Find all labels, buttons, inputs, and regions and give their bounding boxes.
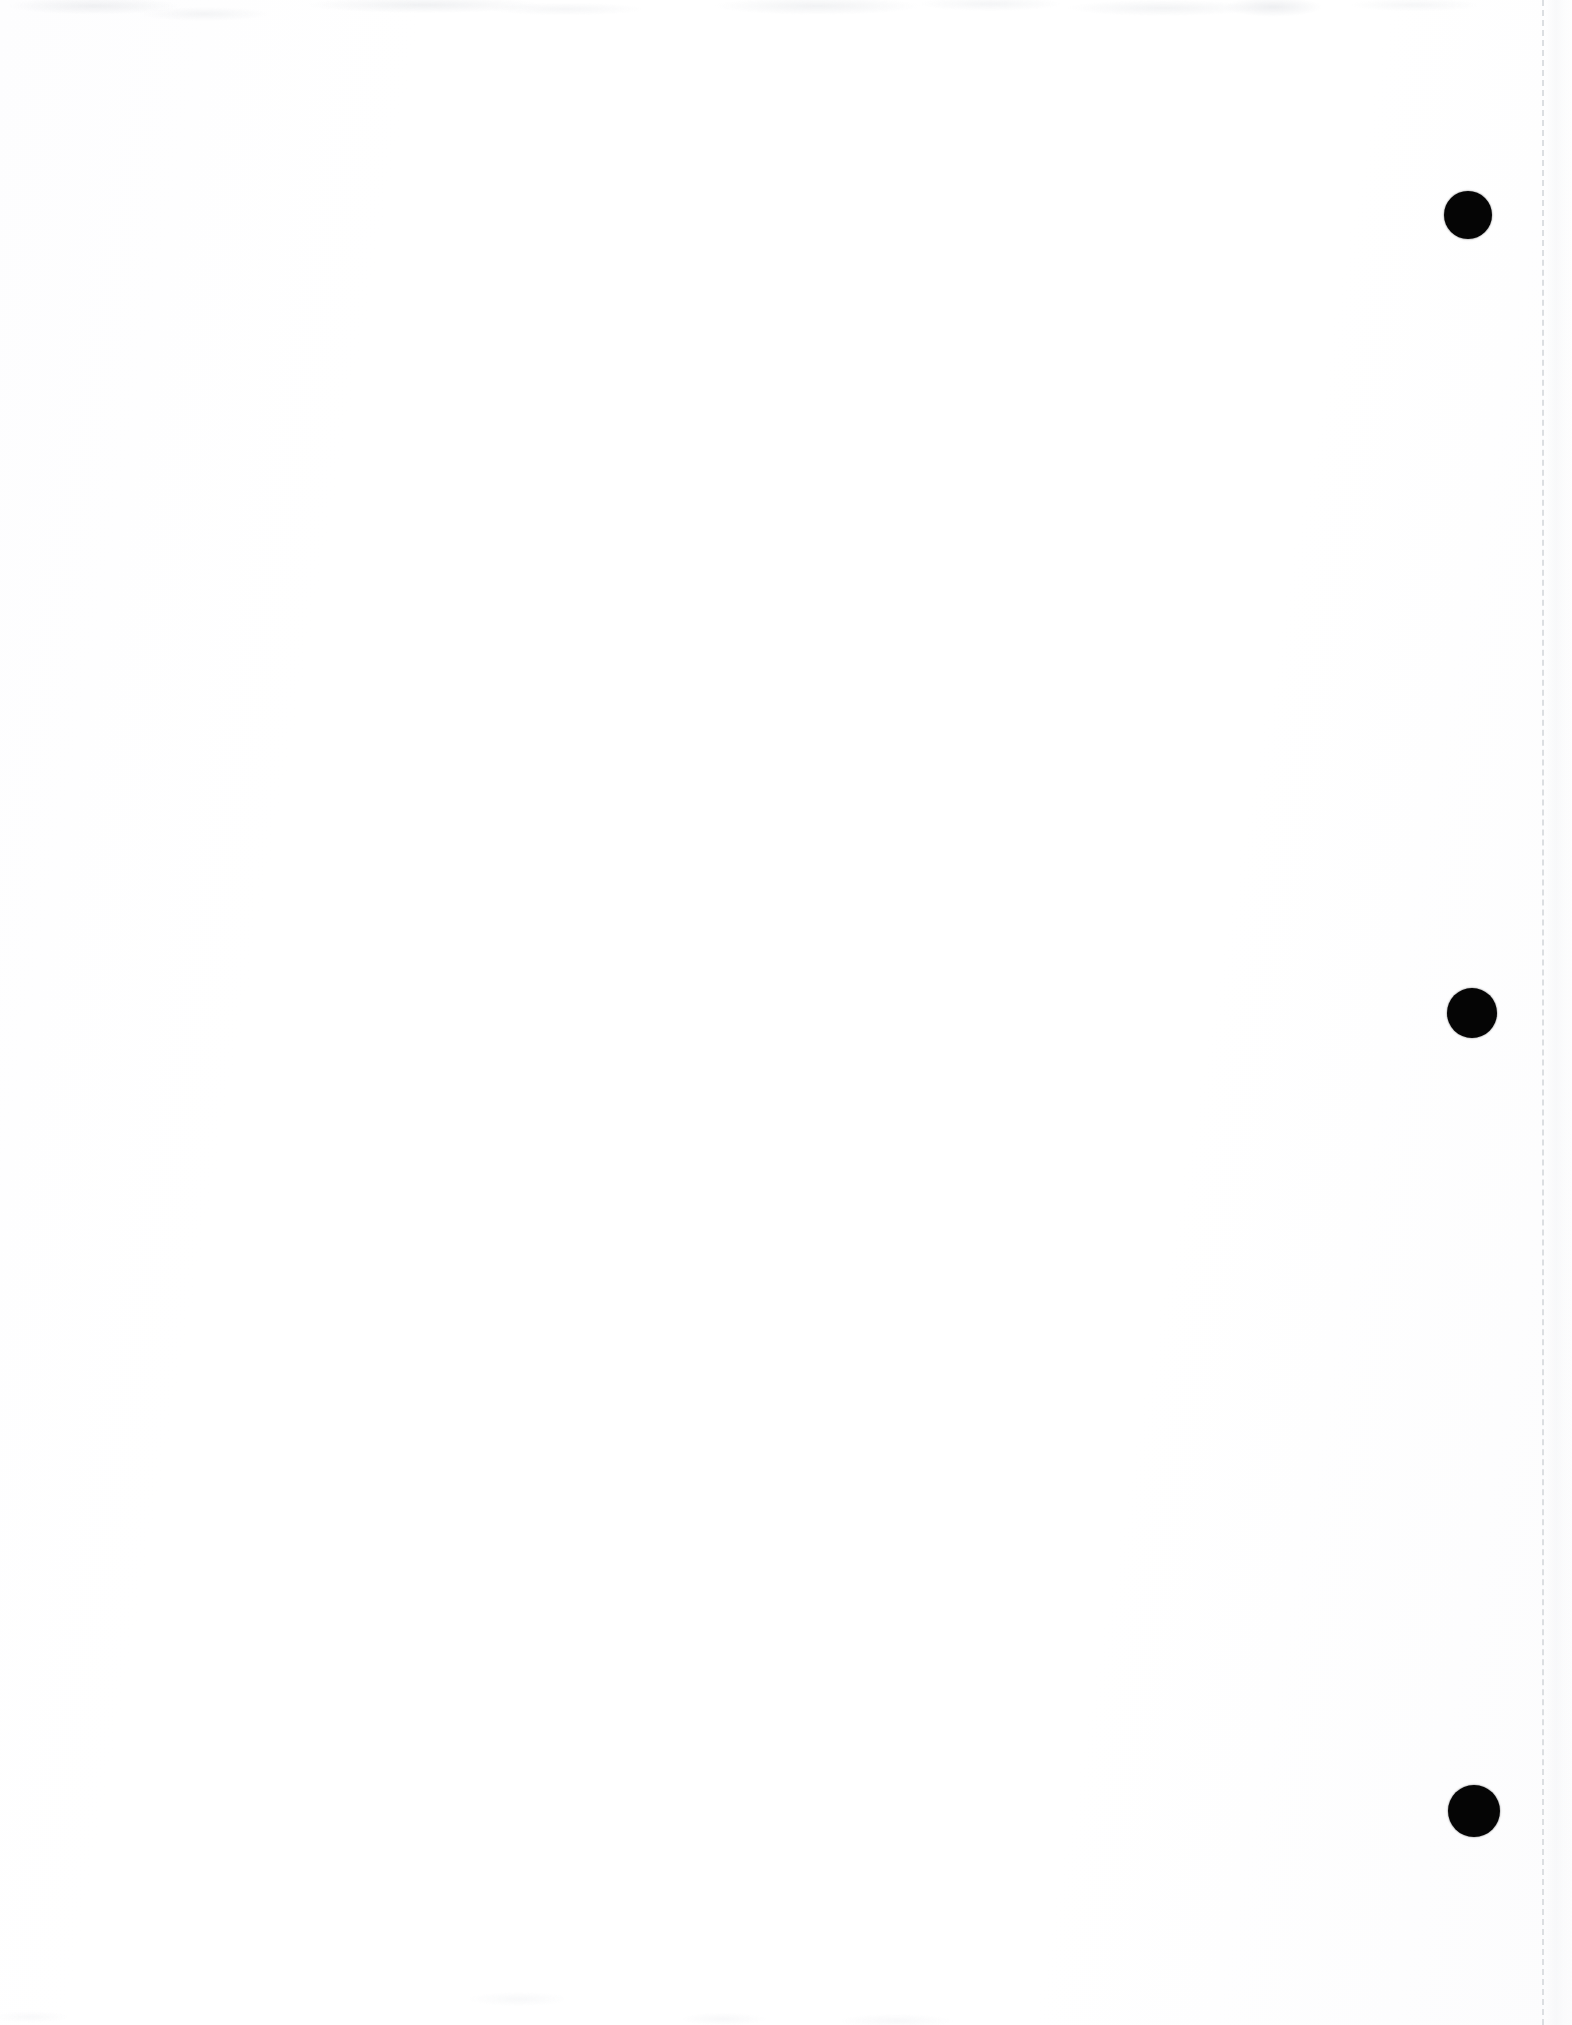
punch-mark-middle xyxy=(1447,988,1497,1038)
punch-mark-bottom xyxy=(1448,1785,1500,1837)
punch-mark-top xyxy=(1444,191,1492,239)
scan-noise-bottom-band xyxy=(0,1981,1572,2025)
paper-surface xyxy=(0,0,1572,2025)
page-body-text xyxy=(0,0,1,1)
scan-noise-top-band xyxy=(0,0,1572,34)
dashed-guide-line xyxy=(1542,0,1544,2025)
scanned-page xyxy=(0,0,1572,2025)
right-edge-scan-streak xyxy=(1546,0,1572,2025)
